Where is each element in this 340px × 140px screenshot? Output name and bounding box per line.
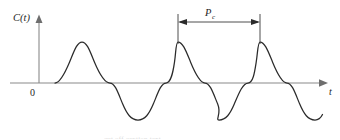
- y-axis-arrowhead-icon: [36, 15, 43, 24]
- y-axis: [36, 15, 43, 84]
- signal-curve: [55, 42, 323, 120]
- origin-label: 0: [30, 87, 35, 98]
- period-label-subscript: c: [212, 13, 216, 21]
- x-axis-label: t: [329, 86, 332, 97]
- period-arrow-left-icon: [178, 19, 187, 25]
- period-label: P: [204, 7, 212, 18]
- plot-svg: C(t) t 0 P c: [0, 0, 340, 140]
- y-axis-label: C(t): [13, 12, 30, 24]
- x-axis-arrowhead-icon: [319, 79, 328, 86]
- figure-canvas: C(t) t 0 P c: [0, 0, 340, 140]
- period-annotation: P c: [178, 7, 260, 44]
- period-arrow-right-icon: [251, 19, 260, 25]
